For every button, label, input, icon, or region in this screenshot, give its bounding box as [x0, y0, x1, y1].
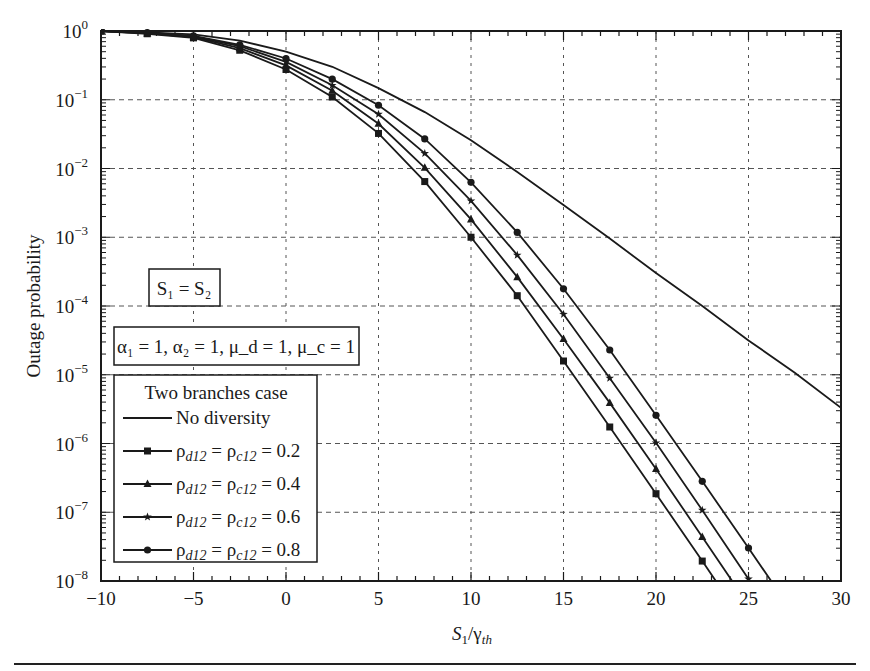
x-axis-title-main: S	[452, 623, 462, 644]
outage-probability-chart: 10010−110−210−310−410−510−610−710−8 −10−…	[0, 0, 870, 671]
y-tick-label: 10−8	[55, 567, 88, 592]
y-axis-title: Outage probability	[23, 234, 44, 377]
x-axis-title-slash: /γ	[468, 623, 482, 644]
x-tick-label: 5	[374, 588, 384, 609]
y-tick-label: 10−7	[55, 498, 88, 523]
x-tick-label: 30	[832, 588, 851, 609]
annotation-parameters: α₁ = 1, α₂ = 1, μ_d = 1, μ_c = 1	[114, 327, 359, 365]
y-axis-tick-labels: 10010−110−210−310−410−510−610−710−8	[55, 17, 88, 592]
y-tick-label: 10−1	[55, 86, 88, 111]
legend-label: No diversity	[176, 407, 271, 428]
x-tick-label: 0	[281, 588, 291, 609]
x-tick-label: 20	[647, 588, 666, 609]
x-tick-label: 10	[462, 588, 481, 609]
y-tick-label: 10−6	[55, 430, 88, 455]
x-tick-label: −5	[183, 588, 203, 609]
bottom-rule-divider	[14, 663, 856, 665]
x-axis-title-sub2: th	[482, 632, 492, 647]
annotation-s1-equals-s2: S₁ = S₂	[149, 269, 220, 306]
y-tick-label: 10−4	[55, 292, 88, 317]
y-tick-label: 10−2	[55, 155, 88, 180]
x-axis-title: S1/γth	[452, 623, 492, 647]
y-tick-label: 100	[63, 17, 89, 42]
x-axis-tick-labels: −10−5051015202530	[86, 588, 850, 609]
x-tick-label: −10	[86, 588, 116, 609]
y-tick-label: 10−3	[55, 223, 88, 248]
legend-title: Two branches case	[144, 382, 287, 403]
annotation-text: S₁ = S₂	[157, 278, 212, 299]
x-tick-label: 15	[554, 588, 573, 609]
x-tick-label: 25	[739, 588, 758, 609]
y-tick-label: 10−5	[55, 361, 88, 386]
annotation-text: α₁ = 1, α₂ = 1, μ_d = 1, μ_c = 1	[117, 336, 355, 357]
legend: Two branches case No diversityρd12 = ρc1…	[114, 375, 317, 563]
